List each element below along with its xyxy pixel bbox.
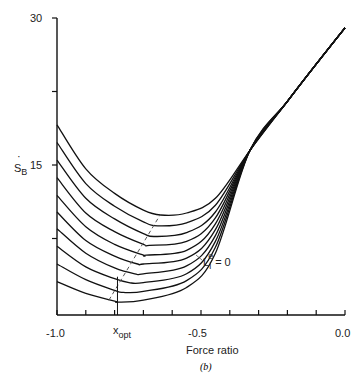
curve-5 [57,28,345,256]
x-opt-label: xopt [113,324,132,340]
y-axis-label-sub: B [21,167,27,177]
y-tick-label-30: 30 [30,12,42,24]
x-opt-label-sub: opt [119,330,132,340]
x-ticks [57,310,345,315]
curve-2 [57,28,345,226]
annotation-sub: i [209,261,211,271]
y-tick-label-15: 15 [30,159,42,171]
x-tick-label-m05: -0.5 [188,327,207,339]
y-axis-label-dot: · [17,150,21,162]
curve-1 [57,28,345,216]
curve-8 [57,28,345,284]
y-axis-label-main: S [14,162,21,174]
curve-9 [57,28,345,293]
curve-7 [57,28,345,275]
curve-4 [57,28,345,246]
panel-label: (b) [200,361,212,373]
y-axis-label: SB [14,162,27,177]
annotation-sup: e [208,251,213,261]
x-tick-label-m1: -1.0 [46,327,65,339]
chart: 30 15 SB · -1.0 -0.5 0.0 xopt Force rati… [0,0,362,379]
curve-3 [57,28,345,237]
y-ticks [52,18,57,239]
annotation-eq: = 0 [215,256,231,268]
x-tick-label-0: 0.0 [335,327,350,339]
x-axis-label: Force ratio [186,344,239,356]
curve-family [57,28,345,303]
curve-6 [57,28,345,265]
